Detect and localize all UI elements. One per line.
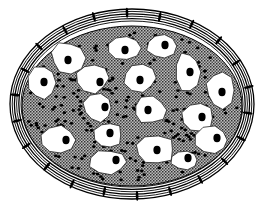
dot	[56, 73, 60, 76]
dot	[125, 99, 129, 102]
dot	[86, 122, 90, 125]
dot	[122, 116, 126, 119]
dot	[126, 141, 130, 144]
dot	[123, 150, 127, 153]
dot	[174, 81, 178, 84]
dot	[203, 154, 207, 157]
dot	[80, 157, 84, 160]
dot	[96, 173, 100, 176]
cell-nucleus	[153, 146, 160, 154]
dot	[107, 120, 111, 123]
dot	[224, 112, 228, 115]
dot	[137, 176, 141, 179]
dot	[190, 132, 194, 135]
dot	[148, 62, 152, 65]
dot	[83, 155, 87, 158]
dot	[56, 118, 60, 121]
dot	[101, 178, 105, 181]
dot	[134, 159, 138, 162]
dot	[60, 104, 64, 107]
dot	[57, 79, 61, 82]
dot	[128, 34, 132, 37]
dot	[62, 96, 66, 99]
dot	[54, 95, 58, 98]
dot	[73, 156, 77, 159]
dot	[78, 113, 82, 116]
dot	[27, 120, 31, 123]
dot	[203, 76, 207, 79]
cell-nucleus	[213, 134, 220, 142]
dot	[169, 130, 173, 133]
dot	[70, 166, 74, 169]
tissue-cross-section	[0, 0, 265, 206]
dot	[124, 106, 128, 109]
dot	[30, 124, 34, 127]
dot	[93, 47, 97, 50]
dot	[186, 92, 190, 95]
dot	[77, 108, 81, 111]
dot	[62, 85, 66, 88]
cell-nucleus	[186, 68, 193, 76]
dot	[77, 167, 81, 170]
dot	[89, 125, 93, 128]
dot	[171, 109, 175, 112]
dot	[182, 140, 186, 143]
dot	[63, 120, 67, 123]
dot	[90, 129, 94, 132]
cell-nucleus	[218, 88, 225, 96]
dot	[129, 157, 133, 160]
cell-nucleus	[136, 76, 143, 84]
dot	[57, 155, 61, 158]
dot	[172, 136, 176, 139]
dot	[165, 119, 169, 122]
dot	[172, 123, 176, 126]
dot	[184, 129, 188, 132]
cell-nucleus	[144, 106, 151, 114]
dot	[70, 122, 74, 125]
dot	[110, 92, 114, 95]
dot	[72, 92, 76, 95]
dot	[121, 62, 125, 65]
dot	[53, 106, 57, 109]
dot	[163, 132, 167, 135]
dot	[136, 136, 140, 139]
dot	[120, 149, 124, 152]
dot	[142, 173, 146, 176]
cell-nucleus	[198, 113, 205, 121]
dot	[43, 124, 47, 127]
dot	[106, 88, 110, 91]
dot	[76, 95, 80, 98]
dot	[176, 133, 180, 136]
cell-nucleus	[62, 136, 69, 144]
dot	[141, 164, 145, 167]
dot	[180, 127, 184, 130]
dot	[158, 90, 162, 93]
dot	[38, 103, 42, 106]
dot	[136, 179, 140, 182]
cell-nucleus	[184, 154, 191, 162]
dot	[157, 167, 161, 170]
dot	[189, 138, 193, 141]
dot	[197, 153, 201, 156]
dot	[79, 100, 83, 103]
dot	[203, 69, 207, 72]
dot	[204, 91, 208, 94]
dot	[41, 106, 45, 109]
dot	[92, 172, 96, 175]
dot	[175, 96, 179, 99]
cell-nucleus	[112, 156, 119, 164]
dot	[55, 85, 59, 88]
dot	[196, 47, 200, 50]
dot	[127, 96, 131, 99]
capsule-nucleus	[220, 157, 229, 166]
dot	[63, 111, 67, 114]
dot	[94, 49, 98, 52]
dot	[79, 105, 83, 108]
dot	[118, 171, 122, 174]
cell-nucleus	[40, 78, 47, 86]
dot	[131, 142, 135, 145]
dot	[177, 138, 181, 141]
dot	[133, 32, 137, 35]
cell-nucleus	[101, 103, 108, 111]
dot	[114, 87, 118, 90]
